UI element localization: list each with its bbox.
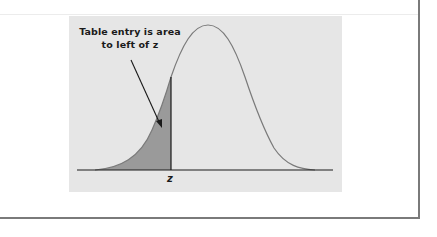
- annotation-arrow: [131, 60, 160, 124]
- annotation-line-1: Table entry is area: [70, 25, 190, 38]
- z-tick-label: z: [167, 173, 173, 184]
- annotation-text: Table entry is area to left of z: [70, 25, 190, 51]
- annotation-line-2: to left of z: [70, 38, 190, 51]
- normal-curve-plot: [0, 0, 437, 237]
